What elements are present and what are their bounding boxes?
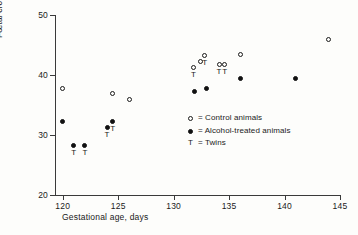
x-tick-mark	[63, 195, 64, 200]
legend-marker-key	[188, 112, 198, 125]
data-point-control	[238, 52, 243, 57]
data-point-alcohol	[238, 76, 243, 81]
y-tick-label: 30	[26, 130, 48, 140]
legend-row: = Control animals	[188, 112, 291, 125]
x-tick-mark	[118, 195, 119, 200]
filled-circle-icon	[188, 129, 193, 134]
data-point-alcohol	[110, 119, 115, 124]
legend-marker-key	[188, 125, 198, 138]
data-point-alcohol	[293, 76, 298, 81]
twin-marker: T	[110, 125, 115, 133]
y-tick-mark	[50, 195, 55, 196]
twin-marker: T	[202, 59, 207, 67]
data-point-control	[127, 97, 132, 102]
figure-canvas: 50403020 120125130135140145 Fœtal crown-…	[0, 0, 358, 235]
twin-marker: T	[222, 68, 227, 76]
y-tick-label: 50	[26, 10, 48, 20]
twin-marker: T	[105, 131, 110, 139]
x-tick-mark	[340, 195, 341, 200]
y-axis-title: Fœtal crown-rump length, cm	[0, 0, 4, 38]
x-tick-mark	[174, 195, 175, 200]
plot-area: TTTTTTTT	[55, 15, 340, 195]
x-tick-label: 145	[325, 201, 355, 211]
x-axis-title: Gestational age, days	[62, 212, 148, 222]
legend-label: = Alcohol-treated animals	[198, 125, 291, 138]
open-circle-icon	[188, 116, 193, 121]
twin-marker: T	[71, 149, 76, 157]
x-tick-label: 135	[214, 201, 244, 211]
data-point-alcohol	[192, 89, 197, 94]
data-point-alcohol	[204, 86, 209, 91]
x-axis-line	[55, 195, 341, 196]
legend-row: = Alcohol-treated animals	[188, 125, 291, 138]
data-point-control	[217, 62, 222, 67]
data-point-control	[326, 37, 331, 42]
x-tick-mark	[285, 195, 286, 200]
x-tick-label: 120	[48, 201, 78, 211]
legend-row: T= Twins	[188, 137, 291, 150]
data-point-alcohol	[60, 119, 65, 124]
x-tick-label: 130	[159, 201, 189, 211]
twin-marker: T	[82, 149, 87, 157]
data-point-alcohol	[82, 143, 87, 148]
twin-marker: T	[191, 71, 196, 79]
chart-legend: = Control animals= Alcohol-treated anima…	[188, 112, 291, 150]
y-tick-label: 40	[26, 70, 48, 80]
data-point-control	[202, 53, 207, 58]
legend-label: = Control animals	[198, 112, 262, 125]
data-point-control	[110, 91, 115, 96]
y-tick-label: 20	[26, 190, 48, 200]
data-point-control	[60, 86, 65, 91]
twin-marker: T	[217, 68, 222, 76]
legend-twin-symbol: T	[188, 137, 198, 150]
legend-label: = Twins	[198, 137, 226, 150]
data-point-control	[191, 65, 196, 70]
x-tick-label: 140	[270, 201, 300, 211]
x-tick-label: 125	[103, 201, 133, 211]
data-point-control	[222, 62, 227, 67]
x-tick-mark	[229, 195, 230, 200]
